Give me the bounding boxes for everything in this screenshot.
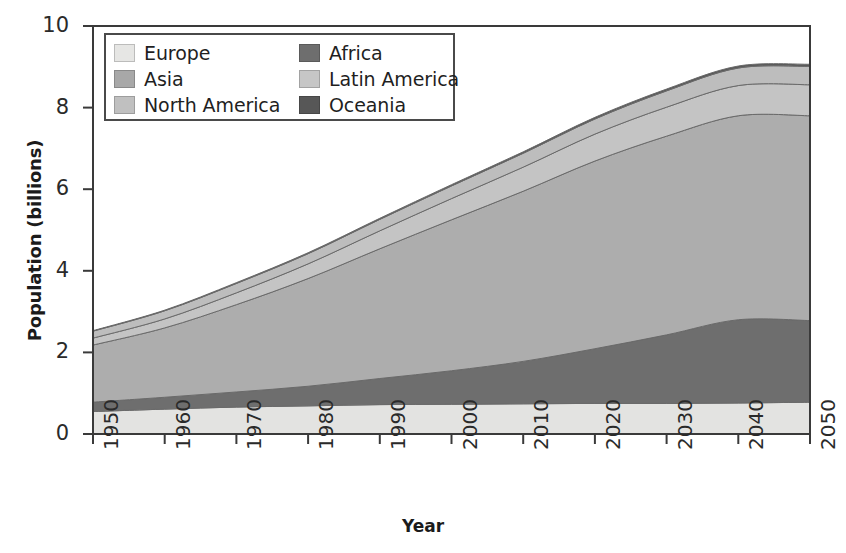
y-axis-title: Population (billions): [24, 111, 45, 371]
legend-entry-oceania: Oceania: [299, 94, 451, 116]
legend-label-europe: Europe: [144, 42, 210, 64]
legend-entry-europe: Europe: [114, 42, 299, 64]
legend-swatch-oceania-icon: [299, 96, 320, 114]
y-tick-label: 10: [25, 15, 69, 36]
legend-label-north-america: North America: [144, 94, 280, 116]
population-area-chart: 0246810 19501960197019801990200020102020…: [0, 0, 846, 553]
x-tick-label: 1950: [101, 399, 121, 450]
x-tick-label: 2010: [531, 399, 551, 450]
legend-label-oceania: Oceania: [329, 94, 406, 116]
chart-legend: EuropeAfricaAsiaLatin AmericaNorth Ameri…: [104, 33, 455, 121]
legend-entry-asia: Asia: [114, 68, 299, 90]
x-tick-label: 1980: [316, 399, 336, 450]
y-tick-label: 0: [25, 423, 69, 444]
legend-label-africa: Africa: [329, 42, 383, 64]
x-tick-label: 2000: [460, 399, 480, 450]
legend-entry-north-america: North America: [114, 94, 299, 116]
legend-swatch-asia-icon: [114, 70, 135, 88]
x-tick-label: 1960: [173, 399, 193, 450]
legend-swatch-europe-icon: [114, 44, 135, 62]
legend-entry-africa: Africa: [299, 42, 451, 64]
x-tick-label: 1970: [244, 399, 264, 450]
legend-swatch-africa-icon: [299, 44, 320, 62]
x-tick-label: 2020: [603, 399, 623, 450]
legend-entry-latin-america: Latin America: [299, 68, 451, 90]
legend-swatch-north-america-icon: [114, 96, 135, 114]
x-tick-label: 2050: [818, 399, 838, 450]
x-axis-title: Year: [0, 516, 846, 536]
legend-label-asia: Asia: [144, 68, 183, 90]
x-tick-label: 2040: [746, 399, 766, 450]
legend-label-latin-america: Latin America: [329, 68, 459, 90]
x-tick-label: 1990: [388, 399, 408, 450]
legend-swatch-latin-america-icon: [299, 70, 320, 88]
x-tick-label: 2030: [675, 399, 695, 450]
